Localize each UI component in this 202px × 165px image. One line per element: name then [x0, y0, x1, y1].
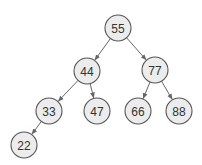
tree-node-77: 77: [142, 57, 168, 83]
edge-55-44: [95, 39, 111, 61]
node-label: 47: [90, 105, 104, 119]
edge-44-47: [90, 84, 94, 98]
node-label: 66: [131, 105, 145, 119]
tree-node-47: 47: [84, 98, 110, 124]
tree-node-88: 88: [166, 98, 192, 124]
edge-55-77: [127, 38, 146, 60]
node-label: 88: [172, 105, 186, 119]
edge-77-66: [143, 82, 150, 99]
binary-tree-diagram: 5544773347668822: [0, 0, 202, 165]
tree-node-66: 66: [125, 98, 151, 124]
node-label: 55: [111, 22, 125, 36]
node-label: 22: [17, 139, 31, 153]
tree-node-22: 22: [11, 132, 37, 158]
node-label: 77: [148, 64, 162, 78]
tree-node-55: 55: [105, 15, 131, 41]
edge-44-33: [58, 80, 78, 101]
edge-33-22: [32, 121, 41, 134]
tree-node-44: 44: [74, 58, 100, 84]
node-label: 33: [42, 105, 56, 119]
tree-node-33: 33: [36, 98, 62, 124]
node-label: 44: [80, 65, 94, 79]
edge-77-88: [162, 81, 173, 99]
